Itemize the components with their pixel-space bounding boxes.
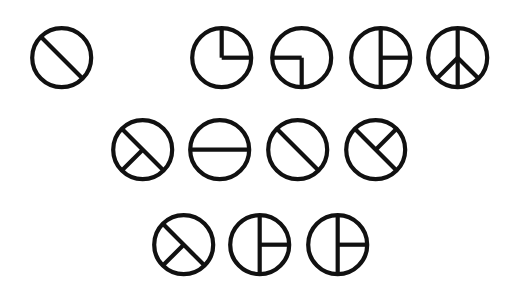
vertical-right-ray-icon: [224, 209, 295, 280]
vertical-right-ray-icon: [345, 22, 416, 93]
diagonal-circle-icon: [262, 114, 333, 185]
glyph-canvas: [0, 0, 514, 290]
quarter-left-bottom-icon: [266, 22, 337, 93]
vertical-right-ray-icon: [302, 209, 373, 280]
diagonal-sw-ray-icon: [148, 209, 219, 280]
diagonal-circle-icon: [26, 22, 97, 93]
diagonal-ne-ray-icon: [340, 114, 411, 185]
quarter-top-right-icon: [186, 22, 257, 93]
diagonal-sw-ray-icon: [107, 114, 178, 185]
peace-sign-icon: [422, 22, 493, 93]
horizontal-circle-icon: [184, 114, 255, 185]
